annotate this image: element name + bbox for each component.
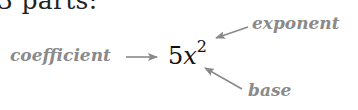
term-parts-figure: 3 parts: coefficient exponent base 5x2 [0,0,358,110]
base-label: base [248,80,291,100]
coefficient-label: coefficient [10,45,111,65]
base-arrow-icon [205,68,242,89]
exponent-arrow-icon [216,27,248,38]
expression-coefficient: 5 [168,42,183,70]
exponent-label: exponent [252,13,340,33]
expression-base: x [183,42,197,70]
math-expression: 5x2 [168,42,207,70]
expression-exponent: 2 [197,37,207,56]
heading-text: 3 parts: [0,0,97,15]
